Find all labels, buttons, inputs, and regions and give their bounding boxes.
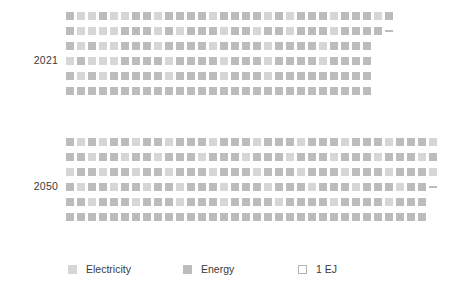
waffle-cell-energy [110, 213, 118, 221]
waffle-cell-energy [143, 213, 151, 221]
waffle-cell-energy [330, 87, 338, 95]
waffle-cell-electricity [110, 12, 118, 20]
waffle-cell-energy [132, 57, 140, 65]
waffle-cell-electricity [220, 27, 228, 35]
waffle-cell-energy [286, 87, 294, 95]
waffle-cell-energy [66, 138, 74, 146]
waffle-cell-electricity [286, 27, 294, 35]
waffle-cell-electricity [88, 153, 96, 161]
waffle-cell-energy [143, 72, 151, 80]
waffle-cell-electricity [330, 198, 338, 206]
waffle-cell-electricity [165, 72, 173, 80]
waffle-cell-energy [297, 27, 305, 35]
waffle-cell-energy [286, 213, 294, 221]
waffle-cell-energy [275, 72, 283, 80]
legend-item-electricity[interactable]: Electricity [68, 262, 131, 276]
waffle-cell-energy [187, 87, 195, 95]
waffle-cell-energy [308, 72, 316, 80]
waffle-cell-electricity [132, 198, 140, 206]
waffle-cell-energy [352, 42, 360, 50]
waffle-cell-electricity [77, 42, 85, 50]
waffle-cell-energy [220, 153, 228, 161]
waffle-cell-energy [77, 153, 85, 161]
waffle-cell-energy [319, 198, 327, 206]
waffle-cell-electricity [165, 57, 173, 65]
waffle-cell-energy [330, 183, 338, 191]
waffle-cell-energy [308, 198, 316, 206]
waffle-cell-electricity [99, 72, 107, 80]
waffle-cell-energy [341, 12, 349, 20]
waffle-cell-energy [275, 183, 283, 191]
waffle-cell-electricity [429, 138, 437, 146]
waffle-cell-electricity [88, 12, 96, 20]
waffle-cell-energy [209, 27, 217, 35]
legend-swatch-electricity-icon [68, 265, 77, 274]
waffle-cell-energy [352, 138, 360, 146]
waffle-cell-energy [286, 138, 294, 146]
waffle-cell-electricity [319, 57, 327, 65]
waffle-cell-energy [264, 87, 272, 95]
waffle-cell-energy [363, 42, 371, 50]
waffle-cell-energy [352, 12, 360, 20]
waffle-cell-energy [308, 213, 316, 221]
waffle-cell-energy [385, 153, 393, 161]
group-label-2021: 2021 [0, 54, 58, 66]
waffle-cell-energy [176, 87, 184, 95]
waffle-row [66, 153, 440, 168]
waffle-cell-energy [363, 87, 371, 95]
waffle-cell-energy [286, 72, 294, 80]
waffle-cell-electricity [341, 168, 349, 176]
waffle-cell-energy [77, 57, 85, 65]
waffle-cell-energy [352, 57, 360, 65]
waffle-cell-energy [209, 72, 217, 80]
waffle-cell-energy [88, 72, 96, 80]
waffle-cell-energy [297, 12, 305, 20]
waffle-cell-energy [242, 27, 250, 35]
waffle-cell-energy [110, 153, 118, 161]
waffle-cell-energy [132, 87, 140, 95]
legend-item-unit[interactable]: 1 EJ [298, 262, 337, 276]
waffle-cell-energy [154, 168, 162, 176]
waffle-cell-electricity [77, 138, 85, 146]
waffle-cell-energy [176, 12, 184, 20]
waffle-cell-energy [187, 153, 195, 161]
waffle-cell-energy [165, 42, 173, 50]
waffle-cell-energy [253, 213, 261, 221]
waffle-cell-energy [143, 12, 151, 20]
waffle-cell-electricity [374, 12, 382, 20]
waffle-cell-electricity [352, 183, 360, 191]
waffle-chart: 2021 2050 Electricity Energy 1 EJ [0, 0, 456, 300]
waffle-cell-energy [121, 198, 129, 206]
waffle-cell-electricity [429, 168, 437, 176]
waffle-cell-energy [253, 153, 261, 161]
waffle-cell-energy [407, 198, 415, 206]
legend-item-energy[interactable]: Energy [183, 262, 234, 276]
waffle-cell-electricity [341, 138, 349, 146]
group-label-2050: 2050 [0, 180, 58, 192]
waffle-cell-electricity [77, 27, 85, 35]
waffle-cell-electricity [374, 153, 382, 161]
waffle-cell-energy [198, 12, 206, 20]
waffle-cell-electricity [209, 12, 217, 20]
waffle-cell-energy [319, 27, 327, 35]
waffle-cell-energy [341, 87, 349, 95]
waffle-cell-energy [374, 138, 382, 146]
waffle-cell-energy [99, 213, 107, 221]
waffle-row [66, 198, 440, 213]
waffle-cell-energy [143, 198, 151, 206]
waffle-grid-2050 [66, 138, 440, 228]
waffle-cell-energy [187, 138, 195, 146]
waffle-cell-energy [330, 42, 338, 50]
waffle-cell-energy [198, 168, 206, 176]
waffle-cell-energy [341, 198, 349, 206]
waffle-cell-energy [275, 213, 283, 221]
waffle-cell-energy [165, 153, 173, 161]
waffle-cell-energy [286, 198, 294, 206]
waffle-cell-energy [242, 168, 250, 176]
waffle-cell-energy [297, 42, 305, 50]
waffle-cell-energy [319, 87, 327, 95]
waffle-cell-electricity [77, 72, 85, 80]
waffle-cell-energy [242, 87, 250, 95]
waffle-cell-energy [297, 213, 305, 221]
waffle-cell-energy [253, 12, 261, 20]
